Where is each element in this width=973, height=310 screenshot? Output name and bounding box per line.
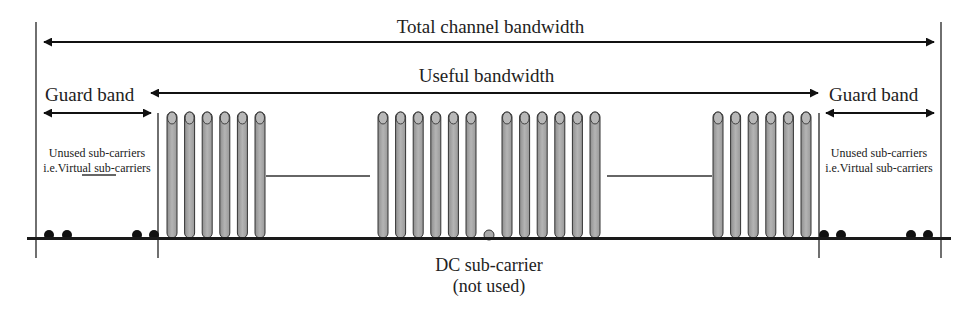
subcarrier-bar [520, 112, 530, 238]
subcarrier-bar-cap [414, 112, 423, 124]
subcarrier-bar [167, 112, 177, 238]
subcarrier-bar-cap [396, 112, 405, 124]
subcarrier-bar [378, 112, 388, 238]
subcarrier-bar [572, 112, 582, 238]
unused-subcarriers-left-label: Unused sub-carriers i.e.Virtual sub-carr… [30, 146, 164, 176]
subcarrier-bar-cap [749, 112, 758, 124]
subcarrier-bar [731, 112, 741, 238]
subcarrier-bar-cap [379, 112, 388, 124]
subcarrier-bar-cap [238, 112, 247, 124]
subcarrier-bar-cap [467, 112, 476, 124]
subcarrier-bar-cap [185, 112, 194, 124]
subcarrier-bar-cap [784, 112, 793, 124]
subcarrier-bar [713, 112, 723, 238]
dc-label-line1: DC sub-carrier [389, 255, 589, 276]
useful-bandwidth-label: Useful bandwidth [0, 65, 973, 87]
subcarrier-bar [220, 112, 230, 238]
subcarrier-bar [766, 112, 776, 238]
subcarrier-bar [555, 112, 565, 238]
total-bandwidth-label: Total channel bandwidth [0, 16, 973, 38]
subcarrier-bar [185, 112, 195, 238]
subcarrier-bar [783, 112, 793, 238]
subcarrier-bar [590, 112, 600, 238]
guard-band-left-label: Guard band [45, 84, 134, 106]
subcarrier-bar [255, 112, 265, 238]
subcarrier-bar-cap [714, 112, 723, 124]
subcarrier-bar-cap [573, 112, 582, 124]
subcarrier-bar-cap [431, 112, 440, 124]
unused-right-line1: Unused sub-carriers [812, 146, 946, 161]
subcarrier-bar [413, 112, 423, 238]
subcarrier-bar-cap [449, 112, 458, 124]
subcarrier-bar-cap [520, 112, 529, 124]
dc-label-line2: (not used) [389, 276, 589, 297]
dc-subcarrier-label: DC sub-carrier (not used) [389, 255, 589, 297]
subcarrier-bar [502, 112, 512, 238]
subcarrier-bar [466, 112, 476, 238]
subcarrier-bar [801, 112, 811, 238]
subcarrier-bar [748, 112, 758, 238]
guard-band-right-label: Guard band [829, 84, 918, 106]
subcarrier-bar-cap [503, 112, 512, 124]
unused-left-line1: Unused sub-carriers [30, 146, 164, 161]
subcarrier-bar-cap [256, 112, 265, 124]
subcarrier-bar-cap [203, 112, 212, 124]
subcarrier-bar-cap [220, 112, 229, 124]
subcarrier-bar [237, 112, 247, 238]
subcarrier-bar-cap [555, 112, 564, 124]
subcarrier-bar [448, 112, 458, 238]
subcarrier-bar [537, 112, 547, 238]
subcarrier-bar [396, 112, 406, 238]
unused-left-line2: i.e.Virtual sub-carriers [30, 161, 164, 176]
subcarrier-bar [431, 112, 441, 238]
subcarrier-bar-cap [731, 112, 740, 124]
subcarrier-bar-cap [802, 112, 811, 124]
subcarrier-bar-cap [591, 112, 600, 124]
subcarrier-bars [167, 112, 811, 238]
subcarrier-bar-cap [766, 112, 775, 124]
subcarrier-bar-cap [538, 112, 547, 124]
subcarrier-bar-cap [168, 112, 177, 124]
unused-right-line2: i.e.Virtual sub-carriers [812, 161, 946, 176]
unused-subcarriers-right-label: Unused sub-carriers i.e.Virtual sub-carr… [812, 146, 946, 176]
subcarrier-bar [202, 112, 212, 238]
